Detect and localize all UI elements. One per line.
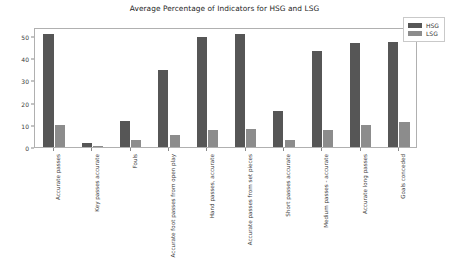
- y-tick-label-30: 30: [21, 78, 29, 85]
- bar-hsg-3: [158, 70, 168, 147]
- bar-hsg-8: [350, 43, 360, 147]
- bar-hsg-7: [312, 51, 322, 147]
- x-tick-mark-0: [53, 148, 54, 151]
- x-tick-label-9: Goals conceded: [400, 154, 406, 199]
- chart-title: Average Percentage of Indicators for HSG…: [0, 4, 449, 13]
- chart-figure: Average Percentage of Indicators for HSG…: [0, 0, 449, 280]
- bar-lsg-8: [361, 125, 371, 147]
- bar-lsg-4: [208, 130, 218, 147]
- bar-hsg-0: [43, 34, 53, 147]
- x-tick-label-4: Hand passes, accurate: [209, 154, 215, 218]
- bar-hsg-1: [82, 143, 92, 147]
- bar-hsg-6: [273, 111, 283, 147]
- legend-label-hsg: HSG: [426, 22, 439, 29]
- x-tick-label-0: Accurate passes: [55, 154, 61, 200]
- x-tick-mark-9: [398, 148, 399, 151]
- chart-legend: HSG LSG: [403, 17, 445, 42]
- x-tick-label-1: Key passes accurate: [94, 154, 100, 212]
- bar-lsg-5: [246, 129, 256, 147]
- bar-lsg-9: [399, 122, 409, 147]
- x-tick-label-6: Short passes accurate: [285, 154, 291, 217]
- x-tick-mark-6: [283, 148, 284, 151]
- x-tick-label-7: Medium passes - accurate: [323, 154, 329, 228]
- bar-hsg-9: [388, 42, 398, 147]
- bar-lsg-1: [93, 146, 103, 147]
- x-tick-label-5: Accurate passes from set pieces: [247, 154, 253, 245]
- y-axis: 01020304050: [0, 28, 34, 149]
- y-tick-label-40: 40: [21, 56, 29, 63]
- x-tick-label-8: Accurate long passes: [362, 154, 368, 214]
- legend-item-lsg: LSG: [408, 30, 439, 37]
- x-tick-mark-8: [360, 148, 361, 151]
- x-tick-mark-7: [321, 148, 322, 151]
- x-tick-mark-2: [130, 148, 131, 151]
- y-tick-label-10: 10: [21, 122, 29, 129]
- bar-hsg-4: [197, 37, 207, 147]
- bar-lsg-7: [323, 130, 333, 147]
- bar-hsg-2: [120, 121, 130, 147]
- legend-label-lsg: LSG: [426, 30, 438, 37]
- bar-lsg-3: [170, 135, 180, 147]
- y-tick-label-20: 20: [21, 100, 29, 107]
- bar-lsg-0: [55, 125, 65, 147]
- legend-item-hsg: HSG: [408, 22, 439, 29]
- bar-lsg-6: [285, 140, 295, 147]
- legend-swatch-lsg: [408, 31, 422, 36]
- x-tick-label-3: Accurate foot passes from open play: [170, 154, 176, 257]
- x-tick-label-2: Fouls: [132, 154, 138, 169]
- x-tick-mark-3: [168, 148, 169, 151]
- bars-layer: [35, 29, 416, 147]
- bar-hsg-5: [235, 34, 245, 147]
- plot-area: [34, 28, 417, 148]
- y-tick-label-50: 50: [21, 33, 29, 40]
- bar-lsg-2: [131, 140, 141, 147]
- x-tick-mark-4: [206, 148, 207, 151]
- x-axis: [34, 148, 417, 152]
- x-tick-mark-5: [245, 148, 246, 151]
- y-tick-label-0: 0: [25, 145, 29, 152]
- x-tick-mark-1: [91, 148, 92, 151]
- legend-swatch-hsg: [408, 23, 422, 28]
